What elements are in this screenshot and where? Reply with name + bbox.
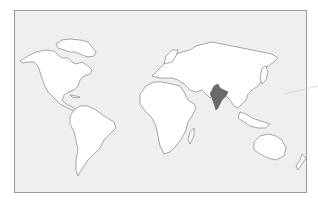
landmass-southeast-asia: [238, 112, 270, 128]
landmass-new-zealand: [296, 154, 306, 170]
landmass-madagascar: [188, 128, 194, 144]
pointer-line: [284, 86, 318, 94]
landmass-australia: [254, 134, 286, 160]
landmass-africa: [140, 82, 196, 154]
landmass-caribbean: [70, 95, 80, 98]
landmass-north-america: [20, 50, 92, 111]
world-map: [0, 0, 318, 206]
landmass-greenland: [56, 39, 96, 57]
landmass-south-america: [70, 106, 116, 176]
